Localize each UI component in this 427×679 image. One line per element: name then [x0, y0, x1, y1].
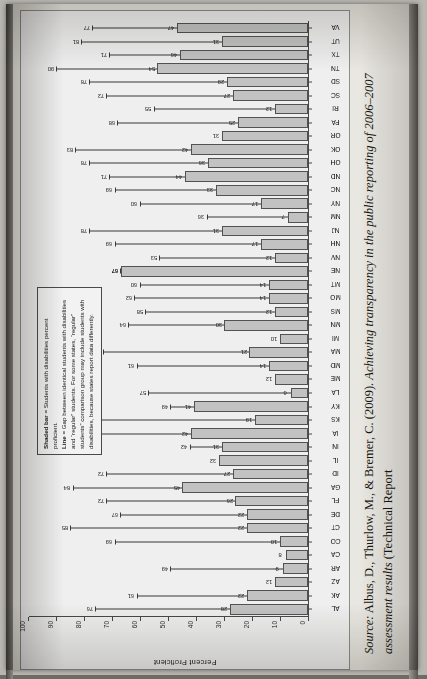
gap-line [96, 609, 230, 610]
x-tick-label: IL [333, 457, 338, 464]
y-tick-mark [196, 617, 197, 621]
bar-value-label: 22 [238, 525, 245, 531]
x-tick-mark [308, 257, 312, 258]
gap-value-label: 64 [120, 322, 127, 328]
gap-line-cap [170, 404, 171, 409]
bar-column: 12AZ [29, 575, 308, 589]
x-tick-label: AL [332, 606, 340, 613]
gap-value-label: 85 [61, 525, 68, 531]
bar-value-label: 32 [210, 458, 217, 464]
bar-value-label: 10 [271, 336, 278, 342]
y-tick-label: 100 [19, 621, 26, 651]
x-tick-mark [308, 609, 312, 610]
bar-column: 8522CT [29, 521, 308, 535]
y-tick-mark [224, 617, 225, 621]
x-tick-label: MA [331, 349, 341, 356]
bar [222, 36, 308, 47]
x-tick-mark [308, 568, 312, 569]
x-tick-mark [308, 447, 312, 448]
gap-line [118, 122, 238, 123]
gap-line [155, 109, 275, 110]
gap-value-label: 83 [67, 147, 74, 153]
gap-line-cap [89, 161, 90, 166]
bar-value-label: 27 [224, 93, 231, 99]
y-tick-label: 40 [187, 621, 194, 651]
bar [222, 131, 308, 142]
y-tick-label: 20 [243, 621, 250, 651]
gap-line-cap [103, 350, 104, 355]
y-tick-label: 30 [215, 621, 222, 651]
bar-value-label: 42 [182, 147, 189, 153]
gap-line-cap [148, 391, 149, 396]
bar [180, 50, 308, 61]
x-tick-label: CA [331, 552, 340, 559]
gap-line-cap [137, 363, 138, 368]
gap-line-cap [115, 188, 116, 193]
x-tick-label: CT [331, 525, 340, 532]
gap-line [107, 474, 233, 475]
x-tick-label: FL [332, 498, 340, 505]
gap-line-cap [117, 120, 118, 125]
x-tick-mark [308, 230, 312, 231]
gap-value-label: 62 [125, 295, 132, 301]
gap-line [129, 325, 224, 326]
y-tick-mark [280, 617, 281, 621]
x-tick-label: MD [330, 362, 340, 369]
bar [269, 361, 308, 372]
x-tick-mark [308, 528, 312, 529]
bar-value-label: 41 [184, 404, 191, 410]
x-tick-mark [308, 203, 312, 204]
bar-column: 6933NC [29, 184, 308, 198]
gap-line [107, 501, 235, 502]
x-tick-label: KS [331, 417, 340, 424]
x-tick-label: MS [331, 308, 341, 315]
bar [208, 158, 308, 169]
bar [283, 563, 308, 574]
x-tick-mark [308, 501, 312, 502]
x-tick-mark [308, 271, 312, 272]
gap-line [110, 176, 185, 177]
x-tick-label: NC [331, 187, 340, 194]
y-tick-label: 50 [159, 621, 166, 651]
bar-value-label: 44 [176, 174, 183, 180]
x-tick-label: LA [332, 390, 340, 397]
bar [261, 239, 308, 250]
y-tick-mark [252, 617, 253, 621]
bar-value-label: 12 [265, 309, 272, 315]
bar-column: 6722DE [29, 508, 308, 522]
bar-column: 7144ND [29, 170, 308, 184]
gap-line-cap [95, 607, 96, 612]
x-tick-mark [308, 460, 312, 461]
bar [286, 550, 308, 561]
x-tick-label: ID [332, 471, 339, 478]
bar-value-label: 28 [221, 606, 228, 612]
bar [191, 428, 308, 439]
gap-line [149, 393, 291, 394]
gap-value-label: 71 [100, 174, 107, 180]
bar [219, 455, 308, 466]
x-tick-label: OH [331, 160, 341, 167]
bar-column: 7226FL [29, 494, 308, 508]
bar-value-label: 25 [229, 120, 236, 126]
bar [247, 509, 308, 520]
bar [182, 482, 308, 493]
bar-value-label: 19 [246, 417, 253, 423]
x-tick-label: KY [331, 403, 340, 410]
x-tick-mark [308, 311, 312, 312]
bar-column: 7146TX [29, 48, 308, 62]
bar-value-label: 31 [212, 39, 219, 45]
y-axis-label: Percent Proficient [154, 659, 217, 668]
bar-value-label: 9 [275, 566, 278, 572]
gap-line-cap [207, 215, 208, 220]
x-tick-mark [308, 122, 312, 123]
x-tick-mark [308, 284, 312, 285]
bar [222, 442, 308, 453]
x-tick-label: IN [332, 444, 339, 451]
x-tick-label: MO [330, 295, 340, 302]
gap-line [135, 298, 269, 299]
y-tick-label: 70 [103, 621, 110, 651]
scan-spine-left [6, 4, 13, 679]
x-tick-mark [308, 244, 312, 245]
gap-value-label: 78 [81, 228, 88, 234]
x-tick-mark [308, 82, 312, 83]
